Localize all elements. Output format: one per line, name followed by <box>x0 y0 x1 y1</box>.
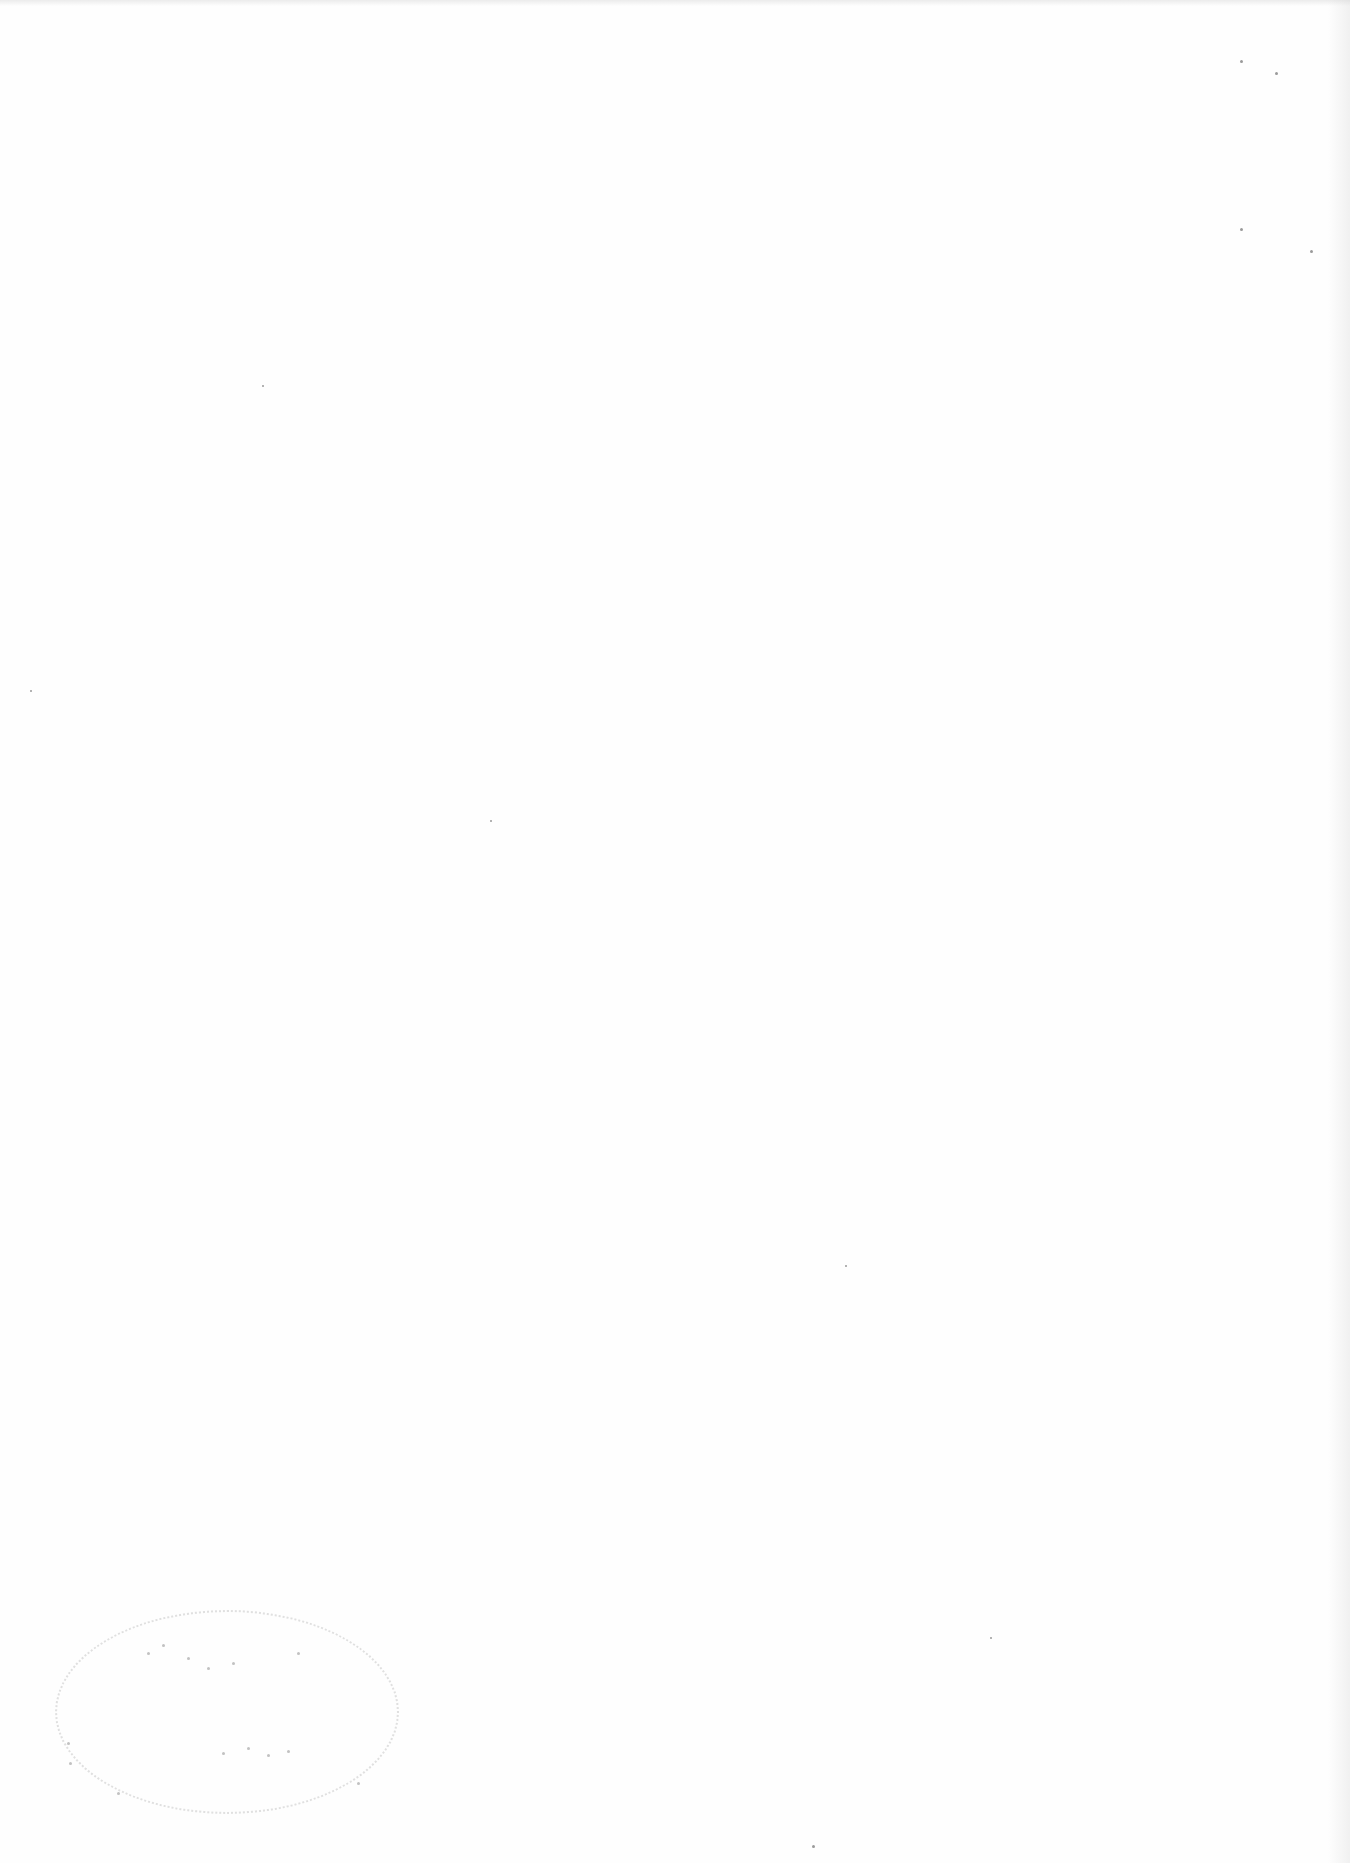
scan-edge-right <box>1328 0 1350 1863</box>
scan-speck <box>262 385 264 387</box>
scan-speck <box>1310 250 1313 253</box>
scan-speck <box>812 1845 815 1848</box>
scan-edge-top <box>0 0 1350 6</box>
faded-stamp <box>55 1610 399 1814</box>
scan-speck <box>30 690 32 692</box>
scan-speck <box>1240 228 1243 231</box>
blank-page <box>0 0 1350 1863</box>
scan-speck <box>490 820 492 822</box>
scan-speck <box>845 1265 847 1267</box>
scan-speck <box>990 1637 992 1639</box>
scan-speck <box>1275 72 1278 75</box>
scan-speck <box>1240 60 1243 63</box>
